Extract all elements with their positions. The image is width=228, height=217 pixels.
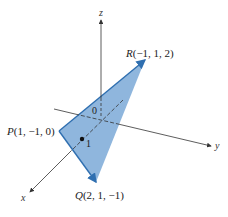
z-axis-label: z (99, 8, 103, 18)
unit-tick-label: 1 (86, 139, 91, 149)
point-q-name: Q (75, 189, 83, 201)
origin-label: 0 (92, 106, 97, 116)
x-axis-label: x (21, 193, 25, 203)
point-p-name: P (7, 125, 14, 137)
diagram-canvas (0, 0, 228, 217)
point-r-name: R (126, 47, 133, 59)
point-r-label: R(−1, 1, 2) (126, 48, 174, 59)
y-axis-left (54, 109, 75, 114)
x-axis (30, 152, 70, 192)
point-p-label: P(1, −1, 0) (7, 126, 55, 137)
unit-point-marker (80, 137, 84, 141)
point-p-coords: (1, −1, 0) (14, 125, 55, 137)
y-axis-label: y (215, 141, 219, 151)
point-q-coords: (2, 1, −1) (83, 189, 124, 201)
point-r-coords: (−1, 1, 2) (133, 47, 174, 59)
point-q-label: Q(2, 1, −1) (75, 190, 124, 201)
3d-triangle-figure: z y x 0 1 P(1, −1, 0) Q(2, 1, −1) R(−1, … (0, 0, 228, 217)
y-axis (118, 124, 211, 146)
